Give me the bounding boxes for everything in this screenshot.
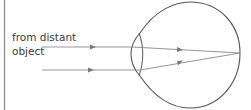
object-label-line-2: object [12,44,76,58]
eyeball-outline [131,2,240,108]
upper-refracted-arrow-icon [177,47,183,52]
object-label: from distant object [12,30,76,58]
eye-diagram: from distant object [0,0,251,110]
upper-incoming-arrow-icon [90,45,96,50]
upper-refracted-ray [132,47,240,53]
object-label-line-1: from distant [12,30,76,44]
lower-refracted-ray [140,53,240,70]
lower-incoming-arrow-icon [88,68,94,73]
